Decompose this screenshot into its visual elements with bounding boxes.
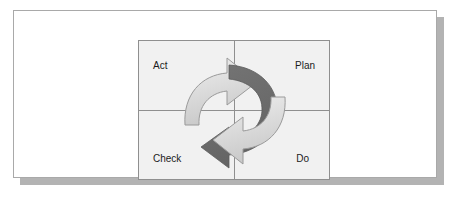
quadrant-label-act: Act bbox=[153, 60, 167, 71]
page-root: Act Plan Check Do bbox=[0, 0, 456, 201]
grid-divider-horizontal bbox=[139, 110, 329, 111]
quadrant-label-do: Do bbox=[296, 153, 309, 164]
check-to-plan-arrow bbox=[185, 58, 257, 125]
diagram-card: Act Plan Check Do bbox=[13, 10, 437, 178]
pdca-diagram-panel: Act Plan Check Do bbox=[138, 40, 330, 180]
quadrant-label-plan: Plan bbox=[295, 60, 315, 71]
do-to-act-arrow bbox=[213, 97, 285, 164]
quadrant-label-check: Check bbox=[153, 153, 181, 164]
plan-to-check-arrow bbox=[201, 65, 277, 168]
